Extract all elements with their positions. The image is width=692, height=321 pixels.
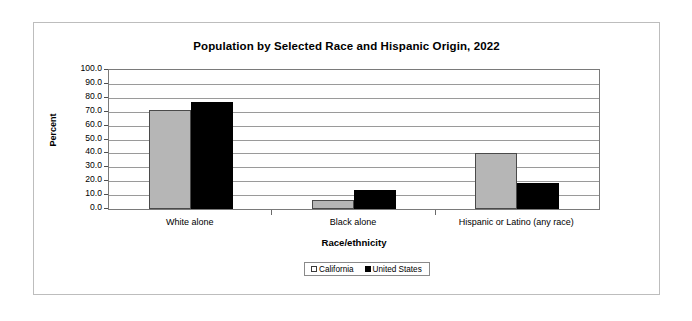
x-axis-tick-mark [271, 210, 272, 215]
x-axis-tick-label: White alone [108, 217, 271, 227]
gridline [109, 84, 599, 85]
legend-swatch-icon-california [311, 266, 317, 272]
bar-united-states [191, 102, 233, 209]
y-axis-tick-label: 40.0 [56, 147, 102, 156]
legend-label-united-states: United States [373, 265, 422, 274]
y-axis-tick-label: 100.0 [56, 64, 102, 73]
y-axis-tick-label: 30.0 [56, 161, 102, 170]
y-axis-tick-label: 20.0 [56, 175, 102, 184]
bar-california [149, 110, 191, 209]
plot-area [108, 69, 600, 210]
legend-swatch-icon-united-states [365, 266, 371, 272]
y-axis-tick-label: 90.0 [56, 78, 102, 87]
y-axis-tick-label: 0.0 [56, 203, 102, 212]
x-axis-tick-label: Black alone [271, 217, 434, 227]
bar-united-states [517, 183, 559, 209]
chart-figure: Population by Selected Race and Hispanic… [0, 0, 692, 321]
y-axis-tick-label: 10.0 [56, 189, 102, 198]
bar-california [475, 153, 517, 209]
bar-united-states [354, 190, 396, 209]
chart-title: Population by Selected Race and Hispanic… [33, 40, 660, 52]
legend-item-united-states: United States [365, 265, 422, 274]
y-axis-title: Percent [48, 70, 58, 190]
y-axis-tick-label: 80.0 [56, 92, 102, 101]
legend-item-california: California [311, 265, 354, 274]
legend-label-california: California [319, 265, 354, 274]
gridline [109, 98, 599, 99]
y-axis-tick-label: 60.0 [56, 120, 102, 129]
x-axis-tick-mark [435, 210, 436, 215]
y-axis-tick-label: 70.0 [56, 106, 102, 115]
x-axis-title: Race/ethnicity [108, 237, 600, 248]
chart-legend: California United States [304, 262, 430, 276]
x-axis-tick-label: Hispanic or Latino (any race) [435, 217, 598, 227]
y-axis-tick-label: 50.0 [56, 134, 102, 143]
bar-california [312, 200, 354, 209]
